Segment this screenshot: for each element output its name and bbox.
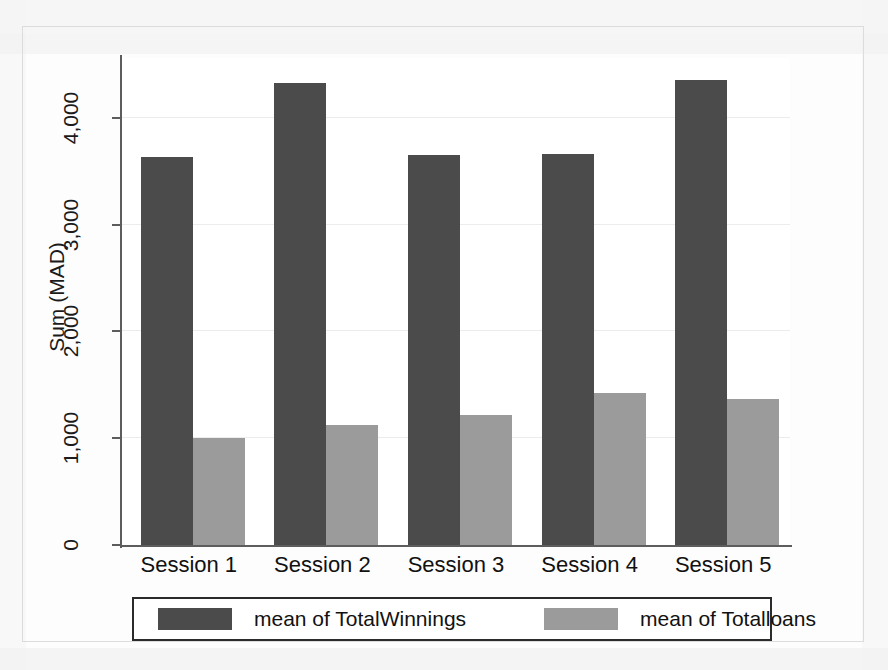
x-axis-tick-label: Session 4	[513, 552, 667, 578]
y-axis-tick-label: 2,000	[59, 296, 83, 366]
bar	[542, 154, 594, 545]
legend-swatch-icon-totalloans	[544, 608, 618, 630]
plot-area	[122, 58, 790, 545]
y-axis-tick-label-wrapper: 1,000	[36, 426, 106, 450]
legend-label-totalloans: mean of Totalloans	[640, 607, 816, 631]
bar	[193, 438, 245, 545]
bar	[675, 80, 727, 545]
x-axis-tick-label: Session 2	[246, 552, 400, 578]
y-axis-tick	[112, 437, 121, 439]
bar	[460, 415, 512, 545]
y-axis-tick-label: 4,000	[59, 83, 83, 153]
x-axis-line	[120, 545, 792, 547]
chart-legend: mean of TotalWinnings mean of Totalloans	[132, 597, 772, 641]
x-axis-tick-label: Session 3	[379, 552, 533, 578]
y-axis-tick-label: 3,000	[59, 190, 83, 260]
y-axis-tick-label-wrapper: 3,000	[36, 213, 106, 237]
y-axis-tick	[112, 330, 121, 332]
bar	[727, 399, 779, 545]
x-axis-tick-label: Session 1	[112, 552, 266, 578]
x-axis-tick-label: Session 5	[646, 552, 800, 578]
y-axis-tick	[112, 117, 121, 119]
y-axis-tick-label: 1,000	[59, 403, 83, 473]
legend-label-totalwinnings: mean of TotalWinnings	[254, 607, 466, 631]
legend-entry-totalloans: mean of Totalloans	[544, 599, 816, 639]
y-axis-tick-label: 0	[59, 510, 83, 580]
scan-noise-band-right	[862, 0, 888, 670]
bar	[274, 83, 326, 545]
y-axis-tick-label-wrapper: 2,000	[36, 319, 106, 343]
y-axis-tick-label-wrapper: 4,000	[36, 106, 106, 130]
bar	[141, 157, 193, 545]
y-axis-tick-label-wrapper: 0	[36, 533, 106, 557]
bar	[408, 155, 460, 545]
legend-swatch-icon-totalwinnings	[158, 608, 232, 630]
y-axis-tick	[112, 544, 121, 546]
scan-noise-band-bottom	[0, 648, 888, 670]
y-axis-line	[120, 55, 122, 548]
legend-entry-totalwinnings: mean of TotalWinnings	[158, 599, 466, 639]
bar-chart-figure: Sum (MAD) 01,0002,0003,0004,000 Session …	[0, 0, 888, 670]
bar	[326, 425, 378, 545]
y-axis-tick	[112, 224, 121, 226]
bar	[594, 393, 646, 545]
